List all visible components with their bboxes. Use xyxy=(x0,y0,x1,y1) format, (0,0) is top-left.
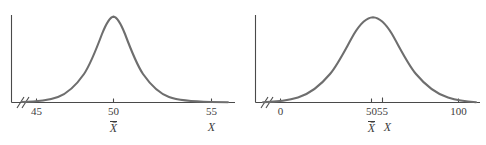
left-sample-mean-label: X̄ xyxy=(106,121,121,134)
left-chart-panel: 45 50 55 X̄ X xyxy=(0,0,243,145)
left-tick-label-50: 50 xyxy=(107,106,120,117)
left-normal-curve xyxy=(22,17,228,103)
left-xbar-glyph: X̄ xyxy=(110,121,117,134)
right-tick-label-0: 0 xyxy=(275,106,286,117)
left-x-variable-label: X xyxy=(205,121,218,133)
left-tick-label-45: 45 xyxy=(30,106,43,117)
right-xbar-glyph: X̄ xyxy=(368,121,375,134)
right-x-ticks xyxy=(281,98,459,103)
right-x-variable-label: X xyxy=(381,121,394,133)
right-chart-panel: 0 50 55 100 X̄ X xyxy=(243,0,486,145)
left-tick-label-55: 55 xyxy=(205,106,218,117)
right-normal-curve xyxy=(263,17,476,102)
right-tick-label-55: 55 xyxy=(376,106,389,117)
normal-curves-figure: 45 50 55 X̄ X xyxy=(0,0,486,145)
right-sample-mean-label: X̄ xyxy=(364,121,379,134)
right-tick-label-100: 100 xyxy=(449,106,468,117)
